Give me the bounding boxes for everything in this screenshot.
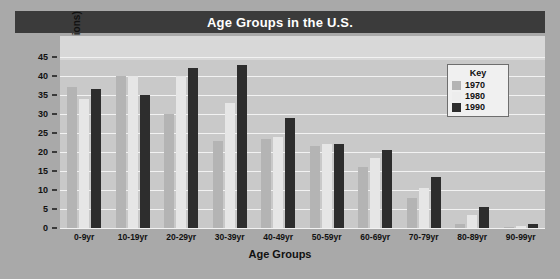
bar-1980-90-99yr [516, 226, 526, 228]
bar-1990-50-59yr [334, 144, 344, 228]
legend-entry-1980: 1980 [452, 91, 504, 101]
bar-1990-10-19yr [140, 95, 150, 228]
legend: Key 197019801990 [447, 64, 509, 117]
y-tick-label: 45 [22, 52, 48, 62]
bar-1970-80-89yr [455, 224, 465, 228]
bar-1990-80-89yr [479, 207, 489, 228]
y-tick-label: 0 [22, 223, 48, 233]
legend-label-1990: 1990 [465, 102, 485, 112]
y-tick-mark [52, 208, 57, 210]
bar-1970-10-19yr [116, 76, 126, 228]
x-tick-label: 30-39yr [206, 232, 255, 242]
bar-1980-40-49yr [273, 137, 283, 228]
bar-1980-60-69yr [370, 158, 380, 228]
y-tick-mark [52, 56, 57, 58]
bar-1970-70-79yr [407, 198, 417, 228]
legend-title: Key [452, 68, 504, 78]
x-tick-label: 60-69yr [351, 232, 400, 242]
bar-group [310, 36, 344, 228]
bar-1980-20-29yr [176, 76, 186, 228]
bar-group [116, 36, 150, 228]
x-tick-label: 80-89yr [448, 232, 497, 242]
y-tick-mark [52, 113, 57, 115]
bar-1970-0-9yr [67, 87, 77, 228]
bar-group [67, 36, 101, 228]
y-tick-label: 15 [22, 166, 48, 176]
bar-1990-90-99yr [528, 224, 538, 228]
bar-1990-60-69yr [382, 150, 392, 228]
bar-group [358, 36, 392, 228]
legend-entries: 197019801990 [452, 80, 504, 112]
x-tick-label: 90-99yr [497, 232, 546, 242]
bar-group [261, 36, 295, 228]
y-tick-label: 40 [22, 71, 48, 81]
x-tick-label: 50-59yr [303, 232, 352, 242]
bar-group [407, 36, 441, 228]
bar-1970-60-69yr [358, 167, 368, 228]
x-tick-label: 40-49yr [254, 232, 303, 242]
y-tick-label: 35 [22, 90, 48, 100]
y-tick-mark [52, 75, 57, 77]
chart-title-bar: Age Groups in the U.S. [15, 11, 545, 33]
bar-1980-0-9yr [79, 99, 89, 228]
y-tick-mark [52, 94, 57, 96]
legend-entry-1970: 1970 [452, 80, 504, 90]
y-tick-mark [52, 132, 57, 134]
y-tick-label: 10 [22, 185, 48, 195]
y-tick-label: 20 [22, 147, 48, 157]
bar-group [164, 36, 198, 228]
bar-1970-30-39yr [213, 141, 223, 228]
page-title: Age Groups in the U.S. [207, 15, 353, 30]
bar-1980-30-39yr [225, 103, 235, 228]
bar-1990-70-79yr [431, 177, 441, 228]
bar-1990-0-9yr [91, 89, 101, 228]
bar-1990-30-39yr [237, 65, 247, 228]
legend-entry-1990: 1990 [452, 102, 504, 112]
x-tick-label: 10-19yr [109, 232, 158, 242]
y-tick-mark [52, 227, 57, 229]
x-tick-label: 0-9yr [60, 232, 109, 242]
legend-swatch-1970 [452, 81, 461, 90]
bar-1970-90-99yr [504, 227, 514, 228]
y-tick-mark [52, 189, 57, 191]
legend-label-1980: 1980 [465, 91, 485, 101]
x-tick-label: 20-29yr [157, 232, 206, 242]
legend-swatch-1980 [452, 92, 461, 101]
y-tick-label: 25 [22, 128, 48, 138]
bar-1980-80-89yr [467, 215, 477, 228]
bar-1970-50-59yr [310, 146, 320, 228]
chart-frame: Age Groups in the U.S. Number of People … [0, 0, 560, 279]
gridline [60, 228, 545, 229]
bar-1980-50-59yr [322, 144, 332, 228]
bar-group [213, 36, 247, 228]
bar-1970-40-49yr [261, 139, 271, 228]
bar-1970-20-29yr [164, 114, 174, 228]
bar-1980-70-79yr [419, 188, 429, 228]
bar-1990-40-49yr [285, 118, 295, 228]
y-tick-label: 30 [22, 109, 48, 119]
bar-1980-10-19yr [128, 76, 138, 228]
legend-swatch-1990 [452, 103, 461, 112]
y-tick-label: 5 [22, 204, 48, 214]
bar-1990-20-29yr [188, 68, 198, 228]
y-tick-mark [52, 170, 57, 172]
legend-label-1970: 1970 [465, 80, 485, 90]
y-tick-mark [52, 151, 57, 153]
x-axis-title: Age Groups [0, 248, 560, 260]
x-tick-label: 70-79yr [400, 232, 449, 242]
